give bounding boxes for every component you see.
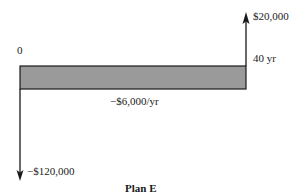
salvage-arrow xyxy=(243,12,250,66)
time-end-label: 40 yr xyxy=(253,52,276,64)
initial-cost-arrow xyxy=(17,89,24,181)
initial-cost-label: −$120,000 xyxy=(27,165,74,177)
annual-cost-label: −$6,000/yr xyxy=(110,95,159,107)
time-start-label: 0 xyxy=(17,44,23,56)
salvage-value-label: $20,000 xyxy=(253,10,289,22)
annual-cost-bar xyxy=(20,66,246,89)
diagram-title: Plan E xyxy=(125,182,156,194)
